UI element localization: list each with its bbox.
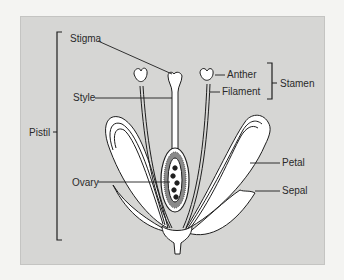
diagram-stage: Stigma Style Pistil Ovary Anther Filamen… [0,0,344,280]
label-anther: Anther [227,69,256,80]
label-style: Style [73,92,95,103]
anther-right [200,69,213,81]
stamen-bracket [267,63,277,99]
label-filament: Filament [222,86,260,97]
label-stigma: Stigma [70,33,101,44]
pistil-bracket [53,32,62,240]
anther-left [134,68,147,81]
label-stamen: Stamen [280,78,314,89]
label-pistil: Pistil [29,127,50,138]
pistil-style [168,72,182,150]
label-ovary: Ovary [72,177,99,188]
receptacle [162,226,192,254]
flower-illustration [0,0,344,280]
ovary [161,148,189,212]
label-sepal: Sepal [282,185,308,196]
label-petal: Petal [282,157,305,168]
